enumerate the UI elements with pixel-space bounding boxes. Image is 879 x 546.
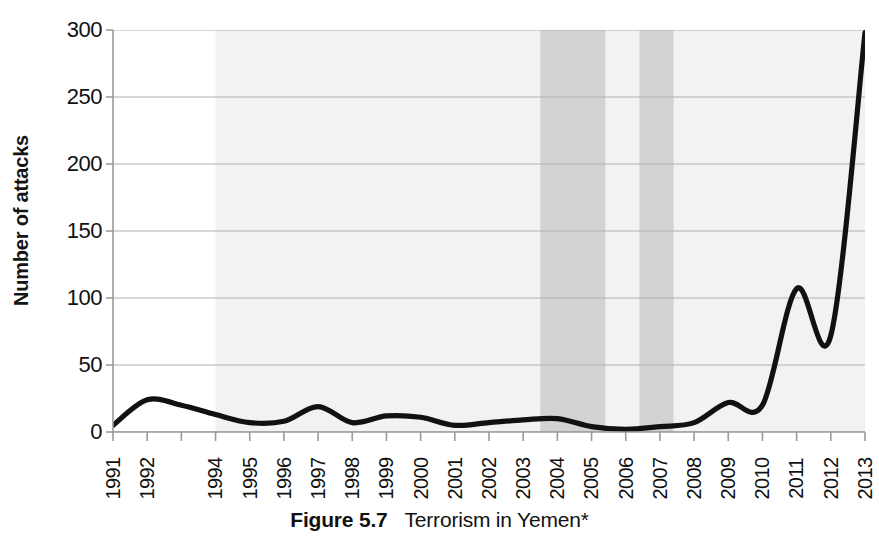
- x-axis-tick-label-text: 2001: [443, 457, 466, 499]
- x-axis-tick-label-text: 1992: [136, 457, 159, 499]
- x-axis-tick-label-1992: 1992: [135, 443, 159, 503]
- x-axis-tick-label-2007: 2007: [648, 443, 672, 503]
- x-axis-tick-label-2001: 2001: [443, 443, 467, 503]
- x-axis-tick-label-text: 2008: [683, 457, 706, 499]
- y-axis-tick-label-100: 100: [40, 285, 102, 311]
- x-axis-tick-label-text: 1998: [341, 457, 364, 499]
- y-axis-tick-labels: 050100150200250300: [34, 0, 102, 546]
- x-axis-tick-label-1997: 1997: [306, 443, 330, 503]
- x-axis-tick-label-text: 2011: [785, 458, 808, 499]
- x-axis-tick-label-text: 2006: [614, 457, 637, 499]
- x-axis-tick-label-2006: 2006: [614, 443, 638, 503]
- x-axis-tick-label-2013: 2013: [853, 443, 877, 503]
- x-axis-tick-label-text: 2000: [409, 457, 432, 499]
- x-axis-tick-label-1999: 1999: [374, 443, 398, 503]
- y-axis-tick-label-200: 200: [40, 151, 102, 177]
- plot-area: [113, 30, 865, 432]
- x-axis-tick-label-text: 1999: [375, 457, 398, 499]
- x-axis-tick-label-2004: 2004: [545, 443, 569, 503]
- y-axis-tick-label-150: 150: [40, 218, 102, 244]
- x-axis-tick-label-text: 1996: [272, 457, 295, 499]
- x-axis-tick-label-text: 2007: [648, 457, 671, 499]
- x-axis-tick-label-1996: 1996: [272, 443, 296, 503]
- x-axis-tick-label-1991: 1991: [101, 443, 125, 503]
- y-axis-tick-label-50: 50: [40, 352, 102, 378]
- y-axis-tick-label-0: 0: [40, 419, 102, 445]
- x-axis-tick-label-2002: 2002: [477, 443, 501, 503]
- line-chart-svg: [113, 30, 865, 432]
- x-axis-tick-label-text: 2009: [717, 457, 740, 499]
- x-axis-tick-label-1994: 1994: [204, 443, 228, 503]
- x-axis-tick-label-text: 1995: [238, 457, 261, 499]
- x-axis-tick-label-1995: 1995: [238, 443, 262, 503]
- x-axis-tick-label-2000: 2000: [409, 443, 433, 503]
- x-axis-tick-label-text: 1997: [307, 457, 330, 499]
- x-axis-tick-label-2008: 2008: [682, 443, 706, 503]
- x-axis-tick-label-text: 2013: [854, 457, 877, 499]
- x-axis-tick-label-2009: 2009: [716, 443, 740, 503]
- x-axis-tick-label-2003: 2003: [511, 443, 535, 503]
- x-axis-tick-label-1998: 1998: [340, 443, 364, 503]
- x-axis-tick-label-2012: 2012: [819, 443, 843, 503]
- figure-title: Terrorism in Yemen*: [405, 508, 589, 531]
- x-axis-tick-label-2011: 2011: [785, 443, 809, 503]
- x-axis-tick-label-text: 2012: [819, 457, 842, 499]
- x-axis-tick-label-text: 2010: [751, 457, 774, 499]
- x-axis-tick-label-text: 1991: [102, 457, 125, 499]
- y-axis-title-text: Number of attacks: [11, 134, 34, 305]
- x-axis-tick-label-2005: 2005: [580, 443, 604, 503]
- x-axis-tick-label-text: 2004: [546, 457, 569, 499]
- x-axis-tick-label-text: 2002: [478, 457, 501, 499]
- x-axis-tick-label-text: 1994: [204, 457, 227, 499]
- y-axis-tick-label-300: 300: [40, 17, 102, 43]
- figure-container: Number of attacks 050100150200250300 199…: [0, 0, 879, 546]
- figure-caption: Figure 5.7Terrorism in Yemen*: [0, 508, 879, 532]
- x-axis-tick-labels: 1991199219941995199619971998199920002001…: [113, 443, 865, 505]
- x-axis-tick-label-2010: 2010: [750, 443, 774, 503]
- figure-number: Figure 5.7: [290, 508, 387, 531]
- x-axis-tick-label-text: 2003: [512, 457, 535, 499]
- y-axis-tick-label-250: 250: [40, 84, 102, 110]
- x-axis-tick-label-text: 2005: [580, 457, 603, 499]
